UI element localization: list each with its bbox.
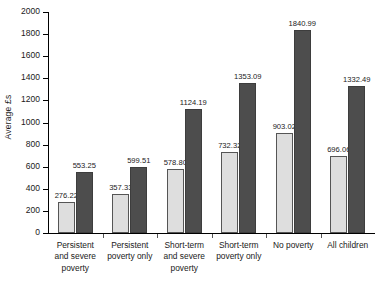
x-category-label-line: poverty: [150, 263, 218, 274]
x-tick-mark: [103, 234, 104, 238]
x-category-label-line: poverty only: [205, 251, 273, 262]
y-tick-label: 1400: [6, 73, 40, 82]
y-tick-label: 2000: [6, 7, 40, 16]
bar-light: [112, 194, 129, 233]
bar-light: [167, 169, 184, 233]
bar-light: [58, 202, 75, 233]
bar-dark: [76, 172, 93, 233]
y-tick-label: 800: [6, 140, 40, 149]
bar-dark: [239, 83, 256, 233]
bar-light: [276, 133, 293, 233]
bar-dark: [130, 167, 147, 233]
x-tick-mark: [266, 234, 267, 238]
bar-dark: [348, 86, 365, 233]
y-tick-label: 1800: [6, 29, 40, 38]
y-tick-label: 1600: [6, 51, 40, 60]
bar-value-label: 1124.19: [176, 99, 210, 107]
y-tick-mark: [43, 233, 48, 234]
bar-value-label: 599.51: [122, 157, 156, 165]
y-tick-label: 400: [6, 184, 40, 193]
bar-value-label: 1353.09: [231, 73, 265, 81]
plot-area: 276.22553.25357.33599.51578.801124.19732…: [48, 12, 375, 233]
y-tick-label: 1000: [6, 118, 40, 127]
y-tick-label: 1200: [6, 95, 40, 104]
x-tick-mark: [212, 234, 213, 238]
bar-dark: [294, 30, 311, 233]
bar-value-label: 1332.49: [340, 76, 374, 84]
y-tick-label: 600: [6, 162, 40, 171]
bar-light: [330, 156, 347, 233]
y-tick-label: 0: [6, 228, 40, 237]
x-category-label-line: poverty: [41, 263, 109, 274]
x-category-label-line: All children: [314, 240, 381, 251]
bar-value-label: 553.25: [67, 162, 101, 170]
bar-light: [221, 152, 238, 233]
x-tick-mark: [157, 234, 158, 238]
y-tick-label: 200: [6, 206, 40, 215]
bar-dark: [185, 109, 202, 233]
bar-value-label: 1840.99: [285, 20, 319, 28]
x-category-label: All children: [314, 240, 381, 251]
x-tick-mark: [321, 234, 322, 238]
bar-chart: Average £s 02004006008001000120014001600…: [0, 0, 381, 285]
